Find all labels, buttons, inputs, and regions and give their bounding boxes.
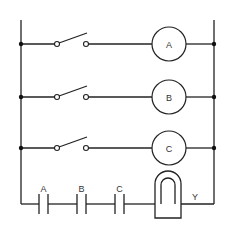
switch-blade-icon xyxy=(59,137,87,147)
coil-c-label: C xyxy=(166,144,173,154)
switch-blade-icon xyxy=(59,86,87,96)
rung-b: B xyxy=(19,80,216,114)
rung-a: A xyxy=(19,27,216,61)
ladder-diagram: A B C A B xyxy=(0,0,227,231)
contact-b-label: B xyxy=(78,184,84,194)
coil-b-label: B xyxy=(166,93,172,103)
output-y-label: Y xyxy=(192,192,198,202)
switch-terminal-right xyxy=(84,42,89,47)
switch-terminal-left xyxy=(55,42,60,47)
bottom-rung: A B C Y xyxy=(21,171,214,218)
contact-a-label: A xyxy=(40,184,46,194)
contact-c-label: C xyxy=(116,184,123,194)
rung-c: C xyxy=(19,131,216,165)
coil-a-label: A xyxy=(166,40,172,50)
switch-blade-icon xyxy=(59,33,87,43)
output-y-icon xyxy=(155,171,181,218)
